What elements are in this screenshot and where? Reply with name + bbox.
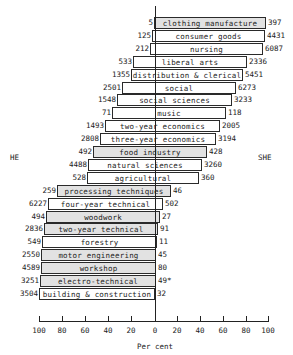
bar-label: food industry bbox=[119, 148, 180, 157]
he-count: 3504 bbox=[20, 288, 38, 300]
he-count: 492 bbox=[78, 146, 92, 158]
she-count: 6087 bbox=[265, 43, 283, 55]
bar-nursing: nursing bbox=[150, 43, 263, 55]
bar-liberal-arts: liberal arts bbox=[133, 56, 247, 68]
she-count: 397 bbox=[268, 17, 282, 29]
bar-label: woodwork bbox=[84, 213, 122, 222]
bar-label: electro-technical bbox=[58, 277, 138, 286]
x-tick bbox=[62, 316, 63, 322]
x-axis-title: Per cent bbox=[137, 342, 173, 351]
bar-label: two-year technical bbox=[59, 225, 144, 234]
bar-label: four-year technical bbox=[61, 200, 151, 209]
she-count: 3233 bbox=[234, 94, 252, 106]
x-tick bbox=[108, 316, 109, 322]
bar-label: forestry bbox=[81, 238, 119, 247]
bar-natural-sciences: natural sciences bbox=[88, 159, 202, 171]
x-tick bbox=[223, 316, 224, 322]
bar-three-year-economics: three-year economics bbox=[100, 133, 216, 145]
she-count: 2336 bbox=[249, 56, 267, 68]
x-tick bbox=[268, 316, 269, 322]
bar-social: social bbox=[122, 82, 236, 94]
she-count: 360 bbox=[201, 172, 215, 184]
he-count: 1493 bbox=[86, 120, 104, 132]
x-tick bbox=[39, 316, 40, 322]
x-tick-label: 100 bbox=[32, 326, 46, 335]
x-tick-label: 20 bbox=[126, 326, 135, 335]
bar-workshop: workshop bbox=[41, 262, 156, 274]
x-tick bbox=[131, 316, 132, 322]
x-tick bbox=[177, 316, 178, 322]
bar-building-construction: building & construction bbox=[39, 288, 155, 300]
he-count: 71 bbox=[102, 107, 111, 119]
he-count: 3251 bbox=[21, 275, 39, 287]
x-tick bbox=[85, 316, 86, 322]
she-count: 80 bbox=[158, 262, 167, 274]
x-tick-label: 60 bbox=[218, 326, 227, 335]
bar-music: music bbox=[112, 107, 226, 119]
bar-woodwork: woodwork bbox=[46, 211, 160, 223]
he-count: 1548 bbox=[98, 94, 116, 106]
she-count: 46 bbox=[173, 185, 182, 197]
bar-agricultural: agricultural bbox=[87, 172, 199, 184]
he-count: 212 bbox=[135, 43, 149, 55]
bar-label: workshop bbox=[80, 264, 118, 273]
he-count: 533 bbox=[118, 56, 132, 68]
he-count: 4589 bbox=[22, 262, 40, 274]
bar-label: three-year economics bbox=[111, 135, 205, 144]
he-count: 6227 bbox=[29, 198, 47, 210]
bar-label: liberal arts bbox=[162, 58, 219, 67]
bar-four-year-technical: four-year technical bbox=[48, 198, 163, 210]
bar-label: two-year economics bbox=[120, 122, 205, 131]
bar-label: processing techniques bbox=[64, 187, 163, 196]
he-side-label: HE bbox=[10, 153, 19, 162]
bar-two-year-technical: two-year technical bbox=[44, 223, 158, 235]
she-count: 118 bbox=[228, 107, 242, 119]
he-count: 1355 bbox=[112, 69, 130, 81]
she-side-label: SHE bbox=[258, 153, 272, 162]
x-tick bbox=[155, 316, 156, 322]
she-count: 3260 bbox=[204, 159, 222, 171]
she-count: 32 bbox=[157, 288, 166, 300]
he-count: 2808 bbox=[81, 133, 99, 145]
bar-label: social bbox=[165, 84, 193, 93]
she-count: 6273 bbox=[238, 82, 256, 94]
bar-electro-technical: electro-technical bbox=[40, 275, 156, 287]
x-axis-line bbox=[39, 321, 268, 322]
bar-label: motor engineering bbox=[58, 251, 138, 260]
x-tick-label: 20 bbox=[172, 326, 181, 335]
x-tick-label: 80 bbox=[57, 326, 66, 335]
she-count: 3194 bbox=[218, 133, 236, 145]
x-tick-label: 0 bbox=[153, 326, 158, 335]
he-count: 5 bbox=[148, 17, 153, 29]
x-tick-label: 40 bbox=[195, 326, 204, 335]
bar-forestry: forestry bbox=[42, 236, 157, 248]
she-count: 27 bbox=[162, 211, 171, 223]
bar-label: consumer goods bbox=[175, 32, 241, 41]
bar-processing-techniques: processing techniques bbox=[57, 185, 171, 197]
x-tick bbox=[200, 316, 201, 322]
he-count: 4488 bbox=[69, 159, 87, 171]
she-count: 502 bbox=[165, 198, 179, 210]
he-count: 259 bbox=[42, 185, 56, 197]
she-count: 5451 bbox=[245, 69, 263, 81]
bar-label: agricultural bbox=[115, 174, 172, 183]
x-tick-label: 60 bbox=[80, 326, 89, 335]
she-count: 45 bbox=[158, 249, 167, 261]
she-count: 11 bbox=[159, 236, 168, 248]
he-count: 528 bbox=[72, 172, 86, 184]
x-tick-label: 80 bbox=[241, 326, 250, 335]
she-count: 4431 bbox=[267, 30, 285, 42]
she-count: 91 bbox=[160, 223, 169, 235]
he-count: 2550 bbox=[22, 249, 40, 261]
he-count: 125 bbox=[137, 30, 151, 42]
bar-label: music bbox=[157, 109, 181, 118]
she-count: 2005 bbox=[222, 120, 240, 132]
bar-distribution-clerical: distribution & clerical bbox=[131, 69, 243, 81]
bar-clothing-manufacture: clothing manufacture bbox=[154, 17, 266, 29]
bar-two-year-economics: two-year economics bbox=[105, 120, 220, 132]
bar-label: building & construction bbox=[43, 290, 151, 299]
bar-label: clothing manufacture bbox=[163, 19, 257, 28]
he-count: 494 bbox=[31, 211, 45, 223]
x-tick-label: 40 bbox=[103, 326, 112, 335]
bar-motor-engineering: motor engineering bbox=[41, 249, 156, 261]
